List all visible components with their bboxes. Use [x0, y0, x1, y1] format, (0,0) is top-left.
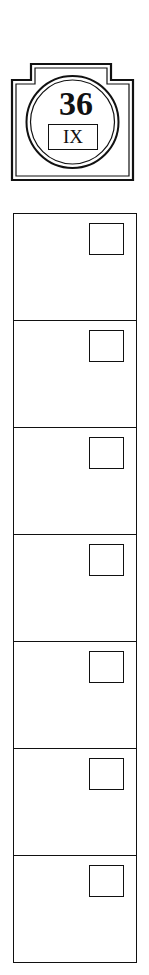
- checklist-row-1: [14, 214, 136, 321]
- checkbox-7[interactable]: [89, 865, 124, 897]
- checklist-row-5: [14, 642, 136, 749]
- checklist-column: [13, 213, 137, 963]
- checkbox-3[interactable]: [89, 437, 124, 469]
- checkbox-6[interactable]: [89, 758, 124, 790]
- checkbox-1[interactable]: [89, 223, 124, 255]
- checklist-row-7: [14, 856, 136, 963]
- header-badge: 36 IX: [0, 0, 149, 200]
- checkbox-4[interactable]: [89, 544, 124, 576]
- checklist-row-6: [14, 749, 136, 856]
- checkbox-5[interactable]: [89, 651, 124, 683]
- badge-roman-numeral: IX: [48, 124, 98, 150]
- checklist-row-3: [14, 428, 136, 535]
- checkbox-2[interactable]: [89, 330, 124, 362]
- badge-number: 36: [48, 87, 104, 121]
- checklist-row-4: [14, 535, 136, 642]
- checklist-row-2: [14, 321, 136, 428]
